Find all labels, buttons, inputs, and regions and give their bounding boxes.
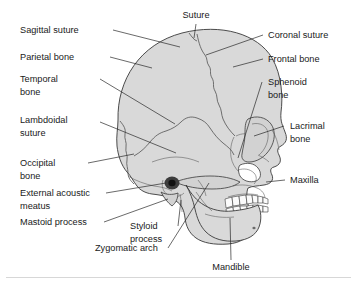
label-parietal-bone: Parietal bone: [20, 52, 74, 62]
label-maxilla: Maxilla: [290, 175, 319, 185]
label-coronal-suture: Coronal suture: [268, 30, 328, 40]
label-occipital-bone-line1: Occipital: [20, 158, 55, 168]
label-suture: Suture: [182, 10, 209, 20]
label-frontal-bone: Frontal bone: [268, 54, 320, 64]
label-lambdoidal-suture-line1: Lambdoidal: [20, 115, 68, 125]
label-sphenoid-bone-line2: bone: [268, 90, 288, 100]
label-occipital-bone-line2: bone: [20, 171, 40, 181]
label-external-acoustic-meatus-line1: External acoustic: [20, 188, 90, 198]
external-acoustic-meatus-inner: [168, 180, 175, 186]
label-lacrimal-bone-line1: Lacrimal: [290, 121, 325, 131]
label-mastoid-process: Mastoid process: [20, 217, 87, 227]
label-lambdoidal-suture-line2: suture: [20, 128, 46, 138]
bottom-divider: [6, 277, 351, 278]
label-sagittal-suture: Sagittal suture: [20, 25, 79, 35]
label-temporal-bone-line2: bone: [20, 87, 40, 97]
mental-foramen: [252, 227, 255, 229]
skull-diagram-figure: Sagittal suture Parietal bone Temporal b…: [0, 0, 357, 287]
label-mandible: Mandible: [212, 262, 249, 272]
label-external-acoustic-meatus-line2: meatus: [20, 201, 51, 211]
label-zygomatic-arch: Zygomatic arch: [95, 243, 158, 253]
label-styloid-process-line1: Styloid: [130, 221, 158, 231]
label-temporal-bone-line1: Temporal: [20, 74, 58, 84]
skull-illustration: [117, 29, 287, 244]
label-lacrimal-bone-line2: bone: [290, 134, 310, 144]
leader-mastoid-process: [104, 199, 168, 222]
label-sphenoid-bone-line1: Sphenoid: [268, 77, 307, 87]
